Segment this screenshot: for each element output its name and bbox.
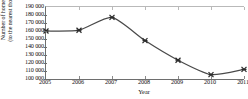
y-axis-tick-mark — [44, 23, 47, 24]
top-axis-tick-mark — [79, 7, 80, 10]
y-axis-tick-label: 180 000 — [25, 11, 44, 17]
x-axis-tick-label: 2008 — [138, 79, 150, 85]
y-axis-tick-labels: 190 000180 000170 000160 000150 000140 0… — [16, 0, 44, 80]
line-chart: Number of homes built (to the nearest th… — [0, 0, 248, 99]
top-axis-tick-mark — [145, 7, 146, 10]
x-axis-title: Year — [45, 89, 243, 95]
data-point-marker — [110, 15, 115, 20]
y-axis-tick-label: 170 000 — [25, 19, 44, 25]
y-axis-tick-mark — [44, 47, 47, 48]
y-axis-tick-label: 130 000 — [25, 51, 44, 57]
top-axis-tick-mark — [178, 7, 179, 10]
y-axis-tick-label: 150 000 — [25, 35, 44, 41]
top-axis-tick-mark — [244, 7, 245, 10]
y-axis-tick-label: 160 000 — [25, 27, 44, 33]
y-axis-tick-mark — [44, 63, 47, 64]
y-axis-tick-mark — [44, 39, 47, 40]
y-axis-title-line1: Number of homes built — [0, 0, 7, 51]
x-axis-tick-label: 2005 — [39, 79, 51, 85]
data-point-marker — [77, 28, 82, 33]
data-series-layer — [46, 7, 244, 79]
x-axis-tick-label: 2006 — [72, 79, 84, 85]
top-axis-tick-mark — [112, 7, 113, 10]
top-axis-tick-mark — [211, 7, 212, 10]
y-axis-tick-label: 120 000 — [25, 59, 44, 65]
x-axis-tick-label: 2007 — [105, 79, 117, 85]
y-axis-tick-mark — [44, 55, 47, 56]
y-axis-title: Number of homes built (to the nearest th… — [0, 0, 14, 51]
x-axis-tick-label: 2011 — [237, 79, 248, 85]
data-point-marker — [176, 58, 181, 63]
y-axis-tick-label: 140 000 — [25, 43, 44, 49]
data-point-marker — [242, 67, 247, 72]
y-axis-tick-label: 190 000 — [25, 3, 44, 9]
plot-area — [45, 6, 244, 80]
y-axis-title-line2: (to the nearest thousand) — [7, 0, 14, 51]
y-axis-tick-mark — [44, 15, 47, 16]
x-axis-tick-label: 2009 — [171, 79, 183, 85]
x-axis-tick-label: 2010 — [204, 79, 216, 85]
data-point-marker — [143, 38, 148, 43]
y-axis-tick-mark — [44, 31, 47, 32]
y-axis-tick-mark — [44, 71, 47, 72]
series-line — [46, 17, 244, 74]
y-axis-tick-label: 110 000 — [25, 67, 44, 73]
